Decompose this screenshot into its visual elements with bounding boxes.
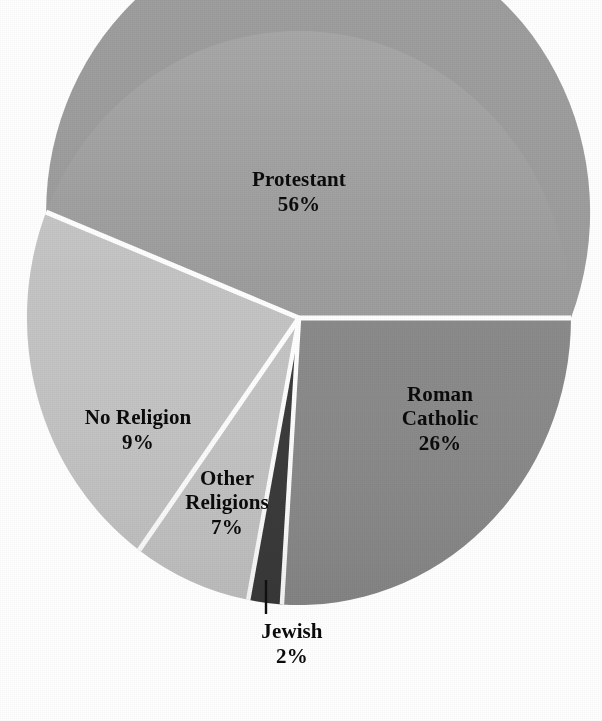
pie-chart: Protestant 56% Roman Catholic 26% No Rel… <box>0 0 602 721</box>
pie-chart-graphic <box>0 0 602 721</box>
scan-tone-wash <box>27 31 571 605</box>
